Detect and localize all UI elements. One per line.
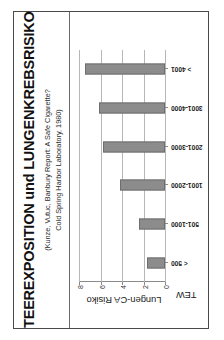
x-tick-label: 501-1000	[171, 221, 199, 228]
bar-group: 2001-3000	[79, 127, 165, 166]
slide-subtitle: (Kunze, Vutuc, Banbury Report: A Safe Ci…	[43, 12, 64, 328]
y-axis-title: Lungen-CA Risiko	[78, 295, 170, 306]
plot-inner: 02468 < 500501-10001001-20002001-3000300…	[80, 50, 166, 282]
x-tick-mark	[165, 262, 168, 263]
bar	[139, 219, 165, 230]
y-tick-label: 4	[120, 285, 127, 289]
bar-group: > 4001	[79, 50, 165, 89]
y-tick-label: 6	[98, 285, 105, 289]
plot-area: 02468 < 500501-10001001-20002001-3000300…	[80, 50, 166, 282]
x-tick-mark	[165, 68, 168, 69]
bar	[85, 64, 165, 75]
bar-group: 501-1000	[79, 205, 165, 244]
y-tick-label: 8	[77, 285, 84, 289]
x-tick-mark	[165, 146, 168, 147]
slide-page: TEEREXPOSITION und LUNGENKREBSRISIKO (Ku…	[0, 0, 224, 340]
bar-chart: Lungen-CA Risiko TEW 02468 < 500501-1000…	[70, 12, 208, 328]
bar	[120, 180, 165, 191]
bar	[99, 103, 165, 114]
y-tick-label: 0	[163, 285, 170, 289]
subtitle-line-2: Cold Spring Harbor Laboratory, 1980)	[54, 12, 65, 328]
x-tick-mark	[165, 107, 168, 108]
x-tick-mark	[165, 223, 168, 224]
subtitle-line-1: (Kunze, Vutuc, Banbury Report: A Safe Ci…	[43, 12, 54, 328]
y-tick-label: 2	[141, 285, 148, 289]
x-tick-label: > 4001	[171, 66, 191, 73]
bar	[103, 141, 165, 152]
gridline	[165, 50, 166, 282]
slide-header: TEEREXPOSITION und LUNGENKREBSRISIKO (Ku…	[14, 12, 70, 328]
bar-group: < 500	[79, 243, 165, 282]
bar	[147, 257, 165, 268]
page-title: TEEREXPOSITION und LUNGENKREBSRISIKO	[21, 12, 37, 328]
x-tick-mark	[165, 184, 168, 185]
slide-canvas: TEEREXPOSITION und LUNGENKREBSRISIKO (Ku…	[13, 11, 209, 329]
x-tick-label: 2001-3000	[171, 143, 203, 150]
x-tick-label: 1001-2000	[171, 182, 203, 189]
bar-group: 3001-4000	[79, 89, 165, 128]
bar-group: 1001-2000	[79, 166, 165, 205]
x-tick-label: < 500	[171, 259, 188, 266]
slide-frame: TEEREXPOSITION und LUNGENKREBSRISIKO (Ku…	[13, 11, 209, 329]
x-tick-label: 3001-4000	[171, 105, 203, 112]
bar-series: < 500501-10001001-20002001-30003001-4000…	[79, 50, 165, 282]
x-axis-title: TEW	[176, 290, 196, 300]
